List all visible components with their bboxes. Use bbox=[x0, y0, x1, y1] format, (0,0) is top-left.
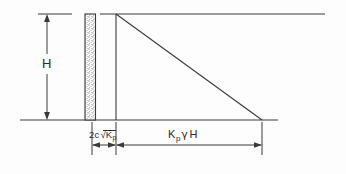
cohesion-dimension-arrow-right bbox=[108, 142, 116, 148]
pressure-hypotenuse bbox=[116, 14, 262, 120]
height-label: H bbox=[42, 56, 52, 71]
retaining-wall bbox=[85, 14, 96, 120]
cohesion-label-subscript: p bbox=[112, 134, 116, 141]
passive-dimension-arrow-left bbox=[116, 142, 124, 148]
passive-dimension-arrow-right bbox=[254, 142, 262, 148]
cohesion-dimension-arrow-left bbox=[92, 142, 100, 148]
passive-label-k: K bbox=[168, 128, 176, 140]
passive-label-h: H bbox=[189, 128, 198, 140]
height-dimension-arrow-bottom bbox=[44, 112, 50, 120]
radical-bar bbox=[103, 130, 116, 131]
passive-earth-pressure-figure: H 2c√Kp KpγH bbox=[0, 0, 346, 174]
diagram-canvas bbox=[0, 0, 346, 174]
cohesion-pressure-label: 2c√Kp bbox=[89, 129, 116, 141]
passive-pressure-label: KpγH bbox=[168, 128, 198, 143]
height-dimension-arrow-top bbox=[44, 14, 50, 22]
square-root-icon: √Kp bbox=[99, 129, 116, 141]
cohesion-label-prefix: 2c bbox=[89, 129, 99, 140]
